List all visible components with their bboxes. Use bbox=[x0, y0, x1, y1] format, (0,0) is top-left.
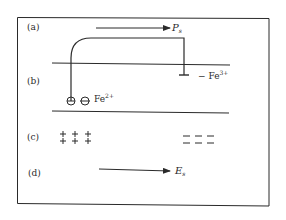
panel-label-c: (c) bbox=[27, 132, 39, 142]
fe3-ion-label: − Fe3+ bbox=[198, 69, 228, 81]
fe2-ion-label: Fe2+ bbox=[94, 92, 114, 104]
positive-charges-group bbox=[60, 131, 91, 144]
negative-charges-group bbox=[183, 136, 214, 143]
upper-boundary-line bbox=[52, 63, 230, 65]
field-label: Es bbox=[174, 165, 185, 177]
diagram-canvas: (a) (b) (c) (d) Ps − Fe3+ Fe2+ Es bbox=[0, 0, 286, 220]
lower-boundary-line bbox=[52, 111, 229, 113]
dipole-path bbox=[71, 38, 184, 101]
panel-label-a: (a) bbox=[27, 22, 39, 32]
negative-charge-circle bbox=[80, 97, 90, 105]
polarization-label: Ps bbox=[171, 22, 182, 34]
field-arrow bbox=[99, 169, 170, 171]
panel-label-d: (d) bbox=[28, 168, 41, 178]
panel-label-b: (b) bbox=[27, 76, 40, 86]
